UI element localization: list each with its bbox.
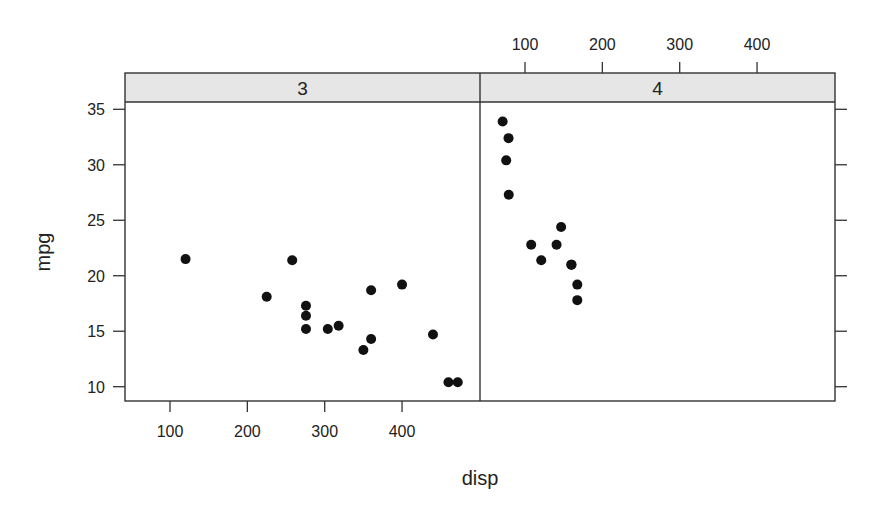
y-tick-label: 10 bbox=[87, 379, 105, 396]
data-point bbox=[428, 330, 438, 340]
data-point bbox=[536, 255, 546, 265]
x-tick-label: 200 bbox=[589, 36, 616, 53]
data-point bbox=[572, 280, 582, 290]
data-point bbox=[453, 377, 463, 387]
x-tick-label: 200 bbox=[234, 423, 261, 440]
data-point bbox=[323, 324, 333, 334]
x-tick-label: 300 bbox=[311, 423, 338, 440]
data-point bbox=[262, 292, 272, 302]
data-point bbox=[301, 311, 311, 321]
data-point bbox=[334, 321, 344, 331]
strip-label: 3 bbox=[297, 78, 308, 99]
data-point bbox=[287, 255, 297, 265]
data-point bbox=[556, 222, 566, 232]
x-tick-label: 100 bbox=[512, 36, 539, 53]
y-tick-label: 20 bbox=[87, 268, 105, 285]
data-point bbox=[181, 254, 191, 264]
data-point bbox=[358, 345, 368, 355]
y-axis-title: mpg bbox=[32, 233, 54, 272]
data-point bbox=[301, 301, 311, 311]
data-point bbox=[501, 155, 511, 165]
x-axis-title: disp bbox=[462, 467, 499, 489]
y-tick-label: 25 bbox=[87, 212, 105, 229]
data-point bbox=[552, 240, 562, 250]
x-tick-label: 300 bbox=[666, 36, 693, 53]
data-point bbox=[366, 334, 376, 344]
trellis-scatter-chart: 31002003004001015202530354100200300400 d… bbox=[0, 0, 882, 511]
data-point bbox=[366, 285, 376, 295]
y-tick-label: 15 bbox=[87, 323, 105, 340]
data-point bbox=[504, 133, 514, 143]
data-point bbox=[504, 190, 514, 200]
data-point bbox=[301, 324, 311, 334]
x-tick-label: 100 bbox=[157, 423, 184, 440]
frame-layer bbox=[125, 73, 835, 401]
y-tick-label: 35 bbox=[87, 101, 105, 118]
strip-label: 4 bbox=[652, 78, 663, 99]
panels-layer: 31002003004001015202530354100200300400 bbox=[87, 36, 847, 440]
data-point bbox=[526, 240, 536, 250]
data-point bbox=[498, 117, 508, 127]
y-tick-label: 30 bbox=[87, 157, 105, 174]
panel-4: 4100200300400 bbox=[480, 36, 847, 387]
panel-3: 3100200300400101520253035 bbox=[87, 73, 480, 440]
data-point bbox=[397, 280, 407, 290]
data-point bbox=[572, 295, 582, 305]
data-point bbox=[566, 260, 576, 270]
x-tick-label: 400 bbox=[744, 36, 771, 53]
data-point bbox=[443, 377, 453, 387]
x-tick-label: 400 bbox=[389, 423, 416, 440]
